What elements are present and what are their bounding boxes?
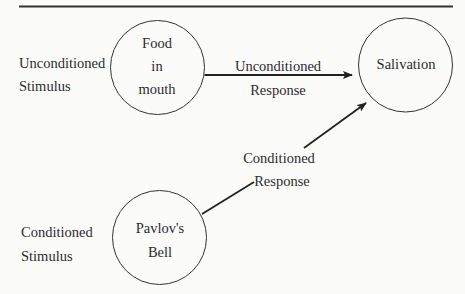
unconditioned-response-label-line2: Response (250, 82, 306, 98)
conditioned-response-label-line1: Conditioned (243, 150, 315, 166)
conditioned-response-label-line2: Response (254, 173, 310, 189)
conditioned-stimulus-label-line1: Conditioned (21, 224, 93, 240)
conditioned-response-arrow-upper (304, 103, 366, 148)
bell-node-label-line2: Bell (148, 244, 172, 260)
bell-node-circle (113, 191, 207, 285)
food-node-label-line3: mouth (138, 81, 175, 97)
conditioned-response-arrow-lower (202, 182, 254, 214)
conditioned-stimulus-label-line2: Stimulus (21, 248, 73, 264)
unconditioned-stimulus-label-line2: Stimulus (19, 78, 71, 94)
bell-node-label-line1: Pavlov's (136, 220, 185, 236)
conditioning-diagram: Unconditioned Stimulus Food in mouth Unc… (0, 0, 465, 294)
food-node-label-line2: in (151, 58, 162, 74)
salivation-node-label: Salivation (377, 56, 436, 72)
food-node-label-line1: Food (142, 35, 172, 51)
unconditioned-response-label-line1: Unconditioned (235, 58, 321, 74)
unconditioned-stimulus-label-line1: Unconditioned (19, 55, 105, 71)
